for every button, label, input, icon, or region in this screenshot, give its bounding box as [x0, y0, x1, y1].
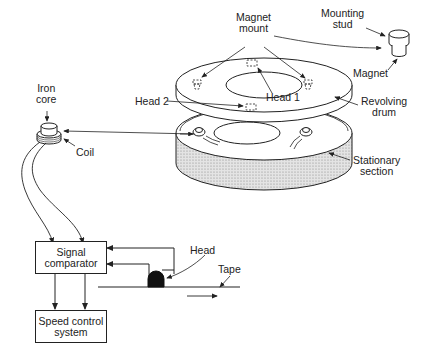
- pickup-coil: [37, 123, 61, 144]
- speed-control-block: Speed control system: [35, 310, 107, 343]
- label-magnet: Magnet: [353, 68, 388, 79]
- leader-coil: [64, 139, 75, 146]
- label-revolving-drum-line2: drum: [361, 107, 407, 118]
- label-mounting-stud: Mounting stud: [321, 8, 364, 30]
- coil-wire-1: [22, 142, 53, 243]
- label-coil: Coil: [76, 147, 94, 158]
- leader-magnet: [388, 59, 397, 70]
- label-mounting-stud-line2: stud: [321, 19, 364, 30]
- head-signal-line-2: [107, 264, 149, 278]
- signal-comparator-line2: comparator: [44, 258, 97, 269]
- label-revolving-drum: Revolving drum: [361, 96, 407, 118]
- magnet-part: [389, 30, 409, 57]
- speed-control-line2: system: [39, 327, 104, 338]
- signal-comparator-line1: Signal: [44, 247, 97, 258]
- label-stationary-section-line2: section: [353, 166, 400, 177]
- link-coil-to-stud: [64, 131, 195, 134]
- leader-mounting-stud: [366, 28, 385, 36]
- label-head-2: Head 2: [135, 96, 169, 107]
- label-magnet-mount-line2: mount: [236, 23, 271, 34]
- diagram-canvas: [0, 0, 422, 359]
- leader-head: [167, 255, 205, 278]
- label-iron-core-line2: core: [36, 94, 56, 105]
- label-head: Head: [190, 245, 215, 256]
- label-tape: Tape: [218, 264, 241, 275]
- label-stationary-section: Stationary section: [353, 155, 400, 177]
- label-iron-core: Iron core: [36, 83, 56, 105]
- playback-head: [148, 271, 164, 287]
- label-head-1: Head 1: [266, 92, 300, 103]
- revolving-drum: [176, 58, 352, 122]
- label-magnet-mount: Magnet mount: [236, 12, 271, 34]
- leader-magnet-mount-to-magnet: [274, 36, 381, 48]
- coil-wire-2: [32, 143, 83, 243]
- signal-comparator-block: Signal comparator: [35, 241, 107, 274]
- speed-control-line1: Speed control: [39, 316, 104, 327]
- leader-tape: [220, 276, 230, 287]
